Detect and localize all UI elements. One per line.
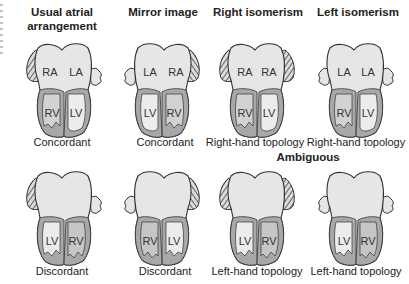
- svg-text:RV: RV: [261, 235, 277, 247]
- svg-text:LV: LV: [144, 107, 157, 119]
- heart-left-isomerism-top: LA LA RV LV: [314, 40, 398, 140]
- svg-text:LV: LV: [70, 107, 83, 119]
- svg-text:RV: RV: [68, 235, 84, 247]
- svg-text:RV: RV: [142, 235, 158, 247]
- svg-text:LV: LV: [362, 107, 375, 119]
- svg-text:RV: RV: [166, 107, 182, 119]
- heart-right-isomerism-top: RA RA RV LV: [215, 40, 299, 140]
- svg-text:RV: RV: [237, 107, 253, 119]
- svg-text:LA: LA: [69, 66, 83, 78]
- svg-text:LV: LV: [239, 235, 252, 247]
- heart-mirror-discordant: RV LV: [120, 168, 204, 268]
- svg-text:LV: LV: [46, 235, 59, 247]
- title-line-1: Usual atrial: [22, 5, 102, 19]
- caption-top-2: Concordant: [115, 136, 215, 148]
- svg-text:LV: LV: [263, 107, 276, 119]
- svg-text:RA: RA: [237, 66, 253, 78]
- svg-text:RV: RV: [360, 235, 376, 247]
- column-title-usual: Usual atrial arrangement: [22, 5, 102, 33]
- svg-text:RV: RV: [336, 107, 352, 119]
- column-title-mirror: Mirror image: [118, 5, 208, 19]
- svg-text:LV: LV: [338, 235, 351, 247]
- left-edge-artifact: [0, 0, 3, 55]
- column-title-right-isomerism: Right isomerism: [208, 5, 308, 19]
- svg-text:RV: RV: [44, 107, 60, 119]
- section-label-ambiguous: Ambiguous: [258, 150, 358, 164]
- heart-usual-discordant: LV RV: [22, 168, 106, 268]
- svg-text:LA: LA: [337, 66, 351, 78]
- caption-bottom-3: Left-hand topology: [207, 265, 307, 277]
- caption-bottom-2: Discordant: [115, 265, 215, 277]
- caption-top-4: Right-hand topology: [306, 136, 406, 148]
- svg-text:LV: LV: [168, 235, 181, 247]
- heart-right-isomerism-bottom: LV RV: [215, 168, 299, 268]
- svg-text:LA: LA: [143, 66, 157, 78]
- svg-text:RA: RA: [261, 66, 277, 78]
- heart-usual-concordant: RA LA RV LV: [22, 40, 106, 140]
- caption-bottom-4: Left-hand topology: [306, 265, 406, 277]
- caption-top-3: Right-hand topology: [205, 136, 305, 148]
- heart-left-isomerism-bottom: LV RV: [314, 168, 398, 268]
- caption-top-1: Concordant: [12, 136, 112, 148]
- caption-bottom-1: Discordant: [12, 265, 112, 277]
- column-title-left-isomerism: Left isomerism: [308, 5, 408, 19]
- title-line-2: arrangement: [22, 19, 102, 33]
- svg-text:RA: RA: [42, 66, 58, 78]
- svg-text:LA: LA: [361, 66, 375, 78]
- svg-text:RA: RA: [168, 66, 184, 78]
- heart-mirror-concordant: LA RA LV RV: [120, 40, 204, 140]
